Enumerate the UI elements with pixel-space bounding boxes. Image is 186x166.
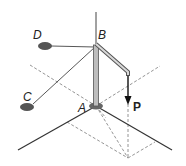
label-p: P (133, 101, 141, 113)
dashed-line-left-axis (30, 65, 96, 106)
pole-ab (94, 45, 99, 106)
dashed-line-left-projection (67, 122, 128, 158)
bent-arm (96, 44, 128, 76)
anchor-c (20, 103, 34, 111)
label-a: A (78, 102, 86, 114)
cable-bd (51, 46, 95, 47)
cables (33, 46, 95, 104)
cable-bc (33, 47, 95, 104)
label-c: C (23, 91, 32, 103)
dashed-line-right-projection (128, 142, 155, 158)
label-b: B (98, 29, 106, 41)
anchor-d (38, 42, 52, 50)
diagram-drawing (0, 0, 186, 166)
force-p-arrow (125, 75, 132, 105)
ground-axes (18, 106, 172, 150)
dashed-line-a-to-ground-point (96, 106, 128, 158)
diagram-canvas: D B C A P (0, 0, 186, 166)
label-d: D (33, 29, 42, 41)
